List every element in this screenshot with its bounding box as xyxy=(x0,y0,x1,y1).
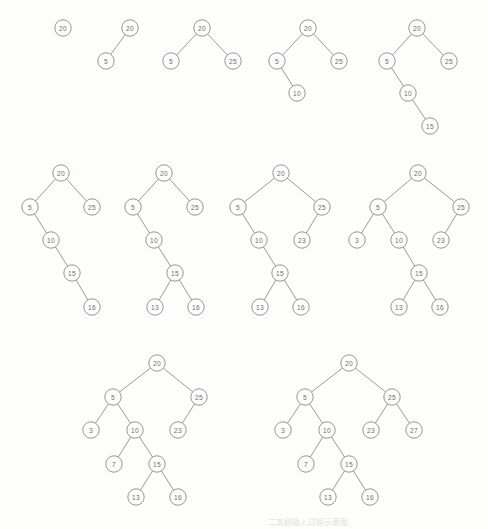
tree-node: 23 xyxy=(294,232,310,248)
tree-node: 25 xyxy=(441,53,457,69)
tree-edge xyxy=(263,247,275,266)
node-value-label: 7 xyxy=(112,461,116,468)
node-value-label: 15 xyxy=(68,270,76,277)
node-value-label: 5 xyxy=(169,58,173,65)
tree-edge xyxy=(159,280,171,300)
node-value-label: 25 xyxy=(445,58,453,65)
tree-edge xyxy=(264,280,276,300)
node-value-label: 15 xyxy=(426,123,434,130)
tree-node: 15 xyxy=(149,456,165,472)
node-value-label: 25 xyxy=(191,204,199,211)
tree-edge xyxy=(242,214,254,233)
tree-edge xyxy=(403,280,415,300)
node-value-label: 20 xyxy=(198,25,206,32)
tree-node: 16 xyxy=(170,489,186,505)
tree-edge xyxy=(445,214,457,233)
tree-node: 25 xyxy=(84,199,100,215)
tree-edge xyxy=(284,280,296,300)
tree-edge xyxy=(96,404,109,423)
bst-step-8: 205251023151316 xyxy=(230,165,330,315)
tree-node: 10 xyxy=(43,232,59,248)
tree-node: 13 xyxy=(128,489,144,505)
node-value-label: 25 xyxy=(229,58,237,65)
tree-node: 20 xyxy=(55,20,71,36)
tree-edge xyxy=(355,368,385,392)
tree-node: 5 xyxy=(163,53,179,69)
node-value-label: 16 xyxy=(192,304,200,311)
tree-node: 23 xyxy=(170,422,186,438)
tree-edge xyxy=(118,404,131,423)
node-value-label: 27 xyxy=(410,427,418,434)
node-value-label: 15 xyxy=(415,270,423,277)
tree-edge xyxy=(281,68,292,86)
tree-node: 7 xyxy=(106,456,122,472)
node-value-label: 13 xyxy=(151,304,159,311)
tree-diagram-canvas: 2020520525205251020525101520525101516205… xyxy=(0,0,488,529)
tree-node: 15 xyxy=(341,456,357,472)
tree-edge xyxy=(413,100,426,119)
node-value-label: 10 xyxy=(150,237,158,244)
node-value-label: 23 xyxy=(437,237,445,244)
node-value-label: 20 xyxy=(413,25,421,32)
tree-edge xyxy=(111,35,125,55)
node-value-label: 10 xyxy=(293,90,301,97)
tree-edge xyxy=(67,179,87,201)
tree-node: 16 xyxy=(188,299,204,315)
node-value-label: 15 xyxy=(171,270,179,277)
tree-node: 5 xyxy=(22,199,38,215)
tree-edge xyxy=(170,179,190,201)
tree-edge xyxy=(179,280,191,300)
tree-node: 15 xyxy=(422,118,438,134)
tree-node: 23 xyxy=(363,422,379,438)
bst-step-11: 2052531023277151316 xyxy=(275,355,422,505)
node-value-label: 16 xyxy=(174,494,182,501)
tree-node: 16 xyxy=(84,299,100,315)
tree-node: 3 xyxy=(349,232,365,248)
node-value-label: 5 xyxy=(303,394,307,401)
tree-node: 25 xyxy=(314,199,330,215)
node-value-label: 10 xyxy=(323,427,331,434)
tree-edge xyxy=(423,280,435,300)
node-value-label: 10 xyxy=(395,237,403,244)
node-value-label: 5 xyxy=(104,58,108,65)
tree-node: 20 xyxy=(273,165,289,181)
node-value-label: 20 xyxy=(304,25,312,32)
tree-node: 25 xyxy=(187,199,203,215)
tree-edge xyxy=(331,437,344,457)
tree-node: 13 xyxy=(391,299,407,315)
tree-node: 3 xyxy=(275,422,291,438)
node-value-label: 5 xyxy=(376,204,380,211)
node-value-label: 13 xyxy=(395,304,403,311)
bst-step-7: 2052510151316 xyxy=(125,165,204,315)
node-value-label: 5 xyxy=(131,204,135,211)
tree-edge xyxy=(287,178,315,202)
bst-step-5: 205251015 xyxy=(379,20,457,134)
tree-node: 3 xyxy=(83,422,99,438)
bst-step-4: 2052510 xyxy=(269,20,347,101)
tree-node: 20 xyxy=(149,355,165,371)
tree-edge xyxy=(393,34,412,55)
tree-node: 15 xyxy=(64,265,80,281)
tree-node: 25 xyxy=(331,53,347,69)
tree-node: 16 xyxy=(293,299,309,315)
tree-node: 10 xyxy=(127,422,143,438)
node-value-label: 3 xyxy=(281,427,285,434)
tree-edge xyxy=(119,368,150,392)
bst-step-10: 20525310237151316 xyxy=(83,355,207,505)
tree-node: 20 xyxy=(122,20,138,36)
tree-edge xyxy=(34,214,46,233)
tree-edge xyxy=(310,404,323,423)
tree-node: 20 xyxy=(341,355,357,371)
tree-node: 25 xyxy=(384,389,400,405)
tree-node: 10 xyxy=(400,85,416,101)
node-value-label: 16 xyxy=(366,494,374,501)
node-value-label: 23 xyxy=(174,427,182,434)
tree-edge xyxy=(384,178,412,201)
node-value-label: 5 xyxy=(275,58,279,65)
tree-edge xyxy=(208,34,228,55)
tree-node: 10 xyxy=(391,232,407,248)
node-value-label: 25 xyxy=(335,58,343,65)
node-value-label: 20 xyxy=(345,360,353,367)
tree-edge xyxy=(424,178,454,202)
tree-node: 15 xyxy=(411,265,427,281)
